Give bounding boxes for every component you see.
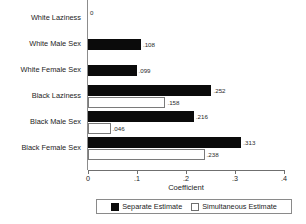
bar-value-separate-white-female-sex: .099 (139, 67, 151, 74)
x-tick-label-4: .4 (281, 175, 287, 183)
category-label-black-male-sex: Black Male Sex (0, 118, 81, 126)
x-tick-label-0: 0 (86, 175, 90, 183)
category-label-black-female-sex: Black Female Sex (0, 144, 81, 152)
legend-item-separate-estimate: Separate Estimate (111, 203, 182, 211)
bar-separate-white-female-sex (88, 65, 137, 76)
y-axis-category-labels: White Laziness White Male Sex White Fema… (0, 0, 84, 170)
bar-separate-black-female-sex (88, 137, 241, 148)
plot-area: 0 .108 .099 .252 .158 .216 .046 .313 .23… (88, 8, 302, 170)
bar-value-separate-black-female-sex: .313 (243, 139, 255, 146)
bar-simultaneous-black-laziness (88, 97, 165, 108)
category-label-white-male-sex: White Male Sex (0, 40, 81, 48)
legend-swatch-separate-icon (111, 203, 119, 211)
category-label-black-laziness: Black Laziness (0, 92, 81, 100)
bar-value-separate-white-male-sex: .108 (143, 41, 155, 48)
category-label-white-female-sex: White Female Sex (0, 66, 81, 74)
x-axis: 0 .1 .2 .3 .4 (88, 170, 284, 171)
x-axis-title: Coefficient (88, 183, 284, 192)
legend-swatch-simultaneous-icon (191, 203, 199, 211)
bar-separate-black-male-sex (88, 111, 194, 122)
legend-label-simultaneous-estimate: Simultaneous Estimate (202, 203, 277, 211)
bar-separate-black-laziness (88, 85, 211, 96)
bar-value-separate-black-male-sex: .216 (196, 113, 208, 120)
x-tick-label-3: .3 (232, 175, 238, 183)
bar-value-separate-black-laziness: .252 (213, 87, 225, 94)
legend-item-simultaneous-estimate: Simultaneous Estimate (191, 203, 277, 211)
bar-value-simultaneous-black-female-sex: .238 (207, 151, 219, 158)
chart-legend: Separate Estimate Simultaneous Estimate (96, 199, 292, 214)
bar-chart-figure: White Laziness White Male Sex White Fema… (0, 0, 306, 224)
x-tick-label-2: .2 (183, 175, 189, 183)
bar-simultaneous-black-female-sex (88, 149, 205, 160)
bar-separate-white-male-sex (88, 39, 141, 50)
bar-value-simultaneous-black-male-sex: .046 (113, 125, 125, 132)
bar-value-simultaneous-black-laziness: .158 (167, 99, 179, 106)
bar-simultaneous-black-male-sex (88, 123, 111, 134)
x-tick-label-1: .1 (134, 175, 140, 183)
category-label-white-laziness: White Laziness (0, 14, 81, 22)
bar-value-separate-white-laziness: 0 (90, 9, 93, 16)
legend-label-separate-estimate: Separate Estimate (122, 203, 182, 211)
